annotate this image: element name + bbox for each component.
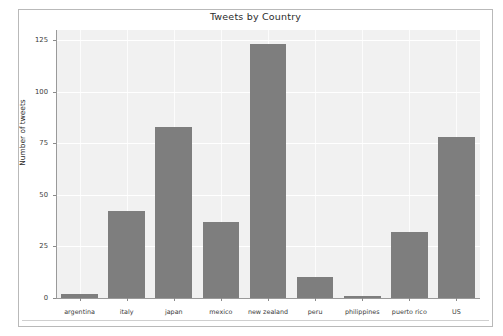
page-title: Tweets by Country xyxy=(18,11,493,22)
bar xyxy=(438,137,475,298)
x-tick-mark xyxy=(362,298,363,301)
x-tick-label: argentina xyxy=(64,308,95,316)
y-tick-mark xyxy=(53,92,56,93)
y-tick-mark xyxy=(53,40,56,41)
plot-area xyxy=(56,30,480,298)
x-tick-label: puerto rico xyxy=(392,308,427,316)
x-tick-label: philippines xyxy=(345,308,380,316)
vertical-gridline xyxy=(315,30,316,298)
bar xyxy=(250,44,287,298)
y-tick-label: 0 xyxy=(0,294,48,302)
x-tick-label: italy xyxy=(120,308,134,316)
y-tick-label: 75 xyxy=(0,139,48,147)
x-tick-mark xyxy=(268,298,269,301)
y-tick-mark xyxy=(53,298,56,299)
y-tick-label: 100 xyxy=(0,88,48,96)
y-tick-label: 25 xyxy=(0,242,48,250)
bar xyxy=(391,232,428,298)
x-tick-mark xyxy=(456,298,457,301)
bar xyxy=(108,211,145,298)
x-tick-label: new zealand xyxy=(248,308,288,316)
x-axis-rule xyxy=(22,320,489,321)
x-tick-mark xyxy=(221,298,222,301)
x-tick-label: mexico xyxy=(209,308,232,316)
y-axis-spine xyxy=(56,30,57,298)
x-tick-mark xyxy=(80,298,81,301)
bar xyxy=(155,127,192,298)
x-tick-mark xyxy=(315,298,316,301)
chart-figure: Tweets by Country Number of tweets 02550… xyxy=(0,0,503,336)
x-tick-label: US xyxy=(452,308,461,316)
bar xyxy=(203,222,240,298)
vertical-gridline xyxy=(362,30,363,298)
bar xyxy=(297,277,334,298)
y-tick-label: 125 xyxy=(0,36,48,44)
y-tick-mark xyxy=(53,246,56,247)
x-tick-mark xyxy=(127,298,128,301)
vertical-gridline xyxy=(80,30,81,298)
y-tick-mark xyxy=(53,195,56,196)
y-tick-mark xyxy=(53,143,56,144)
x-tick-label: peru xyxy=(308,308,323,316)
x-tick-label: japan xyxy=(165,308,183,316)
x-tick-mark xyxy=(409,298,410,301)
y-tick-label: 50 xyxy=(0,191,48,199)
x-tick-mark xyxy=(174,298,175,301)
